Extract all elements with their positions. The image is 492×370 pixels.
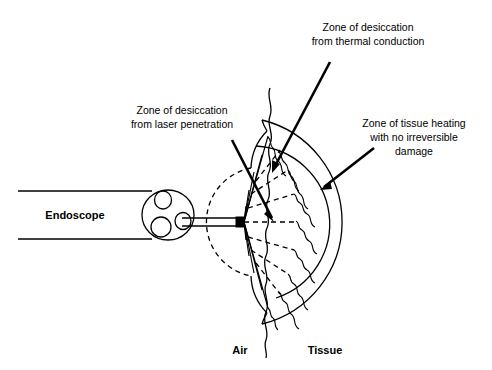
tissue-divider (307, 214, 315, 227)
tissue-divider (288, 274, 294, 284)
laser-tissue-zone-diagram: Endoscope (0, 0, 492, 370)
tissue-divider (302, 230, 309, 241)
tissue-divider (309, 241, 317, 254)
tissue-divider (300, 194, 308, 209)
laser-ray-dashed (248, 194, 294, 208)
tissue-divider (300, 203, 307, 214)
annotation-labels-group: Zone of desiccation from laser penetrati… (131, 21, 466, 356)
label-thermal-conduction-line2: from thermal conduction (312, 35, 425, 47)
label-tissue: Tissue (308, 344, 343, 356)
tissue-divider (291, 314, 299, 329)
endoscope-channel-upper-icon (155, 191, 172, 209)
label-air: Air (232, 344, 248, 356)
tissue-divider (296, 221, 302, 230)
leader-line-thermal-conduction (274, 62, 330, 168)
label-laser-penetration-line2: from laser penetration (131, 118, 233, 130)
label-tissue-heating-line2: with no irreversible (369, 131, 458, 143)
arrowhead-tissue-heating (320, 181, 332, 190)
tissue-divider (294, 250, 300, 259)
endoscope-label: Endoscope (45, 209, 104, 221)
leader-line-tissue-heating (324, 148, 374, 187)
label-laser-penetration-line1: Zone of desiccation (136, 104, 227, 116)
tissue-divider (300, 259, 307, 270)
endoscope-group: Endoscope (18, 190, 244, 240)
tissue-divider (291, 176, 299, 191)
endoscope-tip-ellipse (142, 190, 194, 240)
tissue-divider (300, 296, 308, 310)
tissue-divider (294, 194, 300, 203)
laser-ray-dashed (248, 237, 294, 250)
label-tissue-heating-line3: damage (395, 145, 433, 157)
label-tissue-heating-line1: Zone of tissue heating (362, 117, 465, 129)
endoscope-channel-fiber-port-icon (175, 213, 191, 230)
diagram-canvas: Endoscope (0, 0, 492, 370)
tissue-divider (268, 308, 273, 318)
endoscope-channel-lower-icon (151, 217, 171, 237)
label-thermal-conduction-line1: Zone of desiccation (322, 21, 413, 33)
laser-emitter-tip (236, 217, 244, 227)
